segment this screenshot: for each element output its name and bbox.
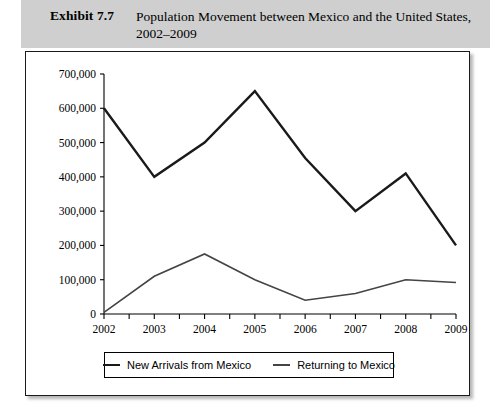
svg-text:600,000: 600,000 bbox=[59, 102, 97, 115]
exhibit-number-label: Exhibit 7.7 bbox=[50, 8, 114, 24]
legend-line-swatch-icon bbox=[273, 364, 290, 366]
svg-text:500,000: 500,000 bbox=[59, 137, 97, 150]
legend-label-returning: Returning to Mexico bbox=[297, 359, 395, 371]
legend-item-returning: Returning to Mexico bbox=[273, 359, 395, 371]
exhibit-header-text: Exhibit 7.7 Population Movement between … bbox=[50, 8, 482, 42]
svg-text:2003: 2003 bbox=[143, 323, 166, 335]
svg-text:2004: 2004 bbox=[193, 323, 216, 335]
exhibit-title: Population Movement between Mexico and t… bbox=[136, 8, 482, 42]
svg-text:300,000: 300,000 bbox=[59, 205, 97, 218]
chart-frame: 0100,000200,000300,000400,000500,000600,… bbox=[25, 51, 470, 396]
exhibit-header-band: Exhibit 7.7 Population Movement between … bbox=[21, 0, 490, 48]
chart-legend: New Arrivals from Mexico Returning to Me… bbox=[104, 352, 394, 378]
svg-text:100,000: 100,000 bbox=[59, 274, 97, 287]
svg-text:700,000: 700,000 bbox=[59, 68, 97, 81]
svg-text:2002: 2002 bbox=[93, 323, 116, 335]
svg-text:2005: 2005 bbox=[243, 323, 266, 335]
svg-text:2006: 2006 bbox=[294, 323, 317, 335]
legend-line-swatch-icon bbox=[103, 364, 120, 366]
legend-item-new-arrivals: New Arrivals from Mexico bbox=[103, 359, 251, 371]
svg-text:0: 0 bbox=[90, 308, 96, 320]
svg-text:400,000: 400,000 bbox=[59, 171, 97, 184]
line-chart-plot: 0100,000200,000300,000400,000500,000600,… bbox=[26, 52, 471, 397]
legend-label-new-arrivals: New Arrivals from Mexico bbox=[127, 359, 251, 371]
exhibit-figure: Exhibit 7.7 Population Movement between … bbox=[0, 0, 490, 407]
svg-text:2008: 2008 bbox=[394, 323, 417, 335]
svg-text:2007: 2007 bbox=[344, 323, 367, 335]
svg-text:2009: 2009 bbox=[445, 323, 468, 335]
svg-text:200,000: 200,000 bbox=[59, 239, 97, 252]
